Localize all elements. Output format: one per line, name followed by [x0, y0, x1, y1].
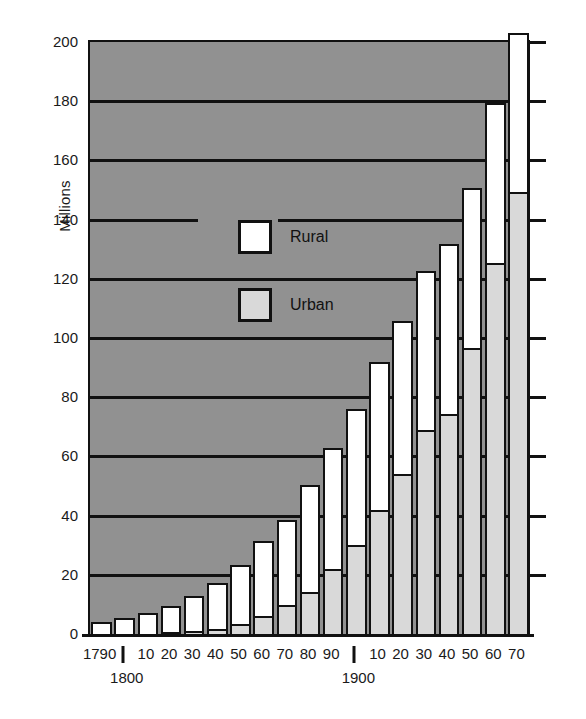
- x-axis-tick-label: 70: [276, 645, 293, 662]
- bar-1920: [392, 321, 412, 634]
- bar-segment-urban: [302, 592, 318, 634]
- right-axis-tick: [528, 337, 546, 340]
- bar-segment-urban: [510, 192, 526, 634]
- bar-series-group: [90, 42, 530, 634]
- y-axis-title: Millions: [56, 156, 76, 256]
- chart-figure: Millions 020406080100120140160180200 Rur…: [0, 0, 586, 719]
- x-axis-tick-label: 20: [392, 645, 409, 662]
- x-axis-tick-label: 60: [485, 645, 502, 662]
- bar-1860: [253, 541, 273, 634]
- y-axis-tick-label: 60: [20, 447, 78, 464]
- right-axis-tick: [528, 278, 546, 281]
- bar-1970: [508, 33, 528, 634]
- century-marker-tick: [353, 646, 356, 663]
- x-axis-tick-label: 1790: [83, 645, 116, 662]
- bar-1830: [184, 596, 204, 634]
- x-axis-tick-label: 40: [207, 645, 224, 662]
- bar-segment-urban: [464, 348, 480, 634]
- bar-1960: [485, 103, 505, 634]
- y-axis-tick-label: 200: [20, 33, 78, 50]
- bar-segment-urban: [418, 430, 434, 634]
- bar-1950: [462, 188, 482, 634]
- bar-1870: [277, 520, 297, 634]
- bar-segment-urban: [371, 510, 387, 634]
- y-axis-tick-label: 100: [20, 329, 78, 346]
- right-axis-tick: [528, 41, 546, 44]
- y-axis-tick-label: 180: [20, 92, 78, 109]
- y-axis-tick-label: 120: [20, 270, 78, 287]
- bar-1840: [207, 583, 227, 634]
- x-axis-tick-label: 40: [439, 645, 456, 662]
- right-axis-tick: [528, 100, 546, 103]
- bar-segment-urban: [325, 569, 341, 634]
- x-axis-tick-label: 20: [161, 645, 178, 662]
- bar-segment-urban: [348, 545, 364, 634]
- x-axis-tick-label: 10: [369, 645, 386, 662]
- right-axis-tick: [528, 396, 546, 399]
- bar-segment-urban: [441, 414, 457, 634]
- x-axis-tick-label: 50: [462, 645, 479, 662]
- y-axis-tick-label: 40: [20, 507, 78, 524]
- x-axis-tick-label: 30: [184, 645, 201, 662]
- bar-1790: [91, 622, 111, 634]
- x-axis-tick-label: 60: [253, 645, 270, 662]
- bar-1880: [300, 485, 320, 634]
- bar-segment-urban: [394, 474, 410, 634]
- bar-segment-urban: [279, 605, 295, 634]
- century-label-1900: 1900: [342, 669, 375, 686]
- x-axis-tick-label: 30: [415, 645, 432, 662]
- right-axis-tick: [528, 455, 546, 458]
- x-axis-tick-label: 50: [230, 645, 247, 662]
- bar-1940: [439, 244, 459, 634]
- x-axis-tick-label: 70: [508, 645, 525, 662]
- y-axis-tick-label: 80: [20, 388, 78, 405]
- y-axis-tick-label: 140: [20, 211, 78, 228]
- x-axis-tick-labels: 1790180010203040506070809019001020304050…: [0, 645, 586, 665]
- bar-1930: [416, 271, 436, 634]
- x-axis-baseline: [82, 634, 534, 637]
- y-axis-tick-label: 0: [20, 625, 78, 642]
- bar-1800: [114, 618, 134, 634]
- bar-segment-urban: [232, 624, 248, 634]
- bar-1910: [369, 362, 389, 634]
- right-axis-tick: [528, 515, 546, 518]
- bar-1900: [346, 409, 366, 634]
- right-axis-tick: [528, 159, 546, 162]
- century-marker-tick: [121, 646, 124, 663]
- bar-segment-urban: [255, 616, 271, 634]
- bar-1810: [138, 613, 158, 634]
- bar-1890: [323, 448, 343, 634]
- plot-area: Rural Urban: [88, 42, 530, 634]
- x-axis-tick-label: 80: [300, 645, 317, 662]
- y-axis-tick-label: 160: [20, 151, 78, 168]
- bar-segment-urban: [487, 263, 503, 634]
- century-label-1800: 1800: [110, 669, 143, 686]
- x-axis-tick-label: 10: [138, 645, 155, 662]
- y-axis-tick-label: 20: [20, 566, 78, 583]
- x-axis-tick-label: 90: [323, 645, 340, 662]
- right-axis-tick: [528, 574, 546, 577]
- bar-1850: [230, 565, 250, 634]
- bar-1820: [161, 606, 181, 634]
- right-axis-tick: [528, 219, 546, 222]
